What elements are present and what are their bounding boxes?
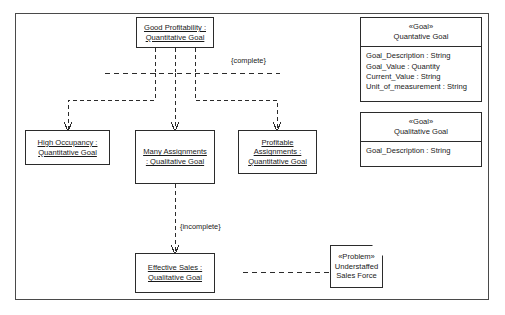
node-good-profitability-line-1: Good Profitability : <box>144 23 206 33</box>
node-high-occupancy-line-1: High Occupancy : <box>38 138 98 148</box>
note-text: «Problem» Understaffed Sales Force <box>330 252 383 281</box>
class-quantative-goal-stereotype: «Goal» <box>363 22 479 32</box>
class-quantative-goal[interactable]: «Goal» Quantative Goal Goal_Description … <box>360 17 482 102</box>
class-quantative-goal-attributes: Goal_Description : String Goal_Value : Q… <box>361 47 481 96</box>
note-line-2: Sales Force <box>330 271 383 281</box>
node-many-assignments-line-1: Many Assignments <box>143 147 207 157</box>
class-qualitative-goal-header: «Goal» Qualitative Goal <box>361 113 481 142</box>
node-profitable-assignments-line-2: Assignments : <box>254 147 302 157</box>
note-line-1: Understaffed <box>330 262 383 272</box>
label-complete: {complete} <box>231 56 266 65</box>
attribute-row: Goal_Value : Quantity <box>366 62 477 72</box>
edge-root-to-high-occupancy <box>68 73 155 129</box>
attribute-row: Goal_Description : String <box>366 51 477 61</box>
class-quantative-goal-header: «Goal» Quantative Goal <box>361 18 481 47</box>
node-profitable-assignments-line-1: Profitable <box>261 138 293 148</box>
node-many-assignments-line-2: : Qualitative Goal <box>146 157 204 167</box>
class-qualitative-goal-stereotype: «Goal» <box>363 117 479 127</box>
edge-root-to-profitable-assignments <box>195 73 277 129</box>
node-high-occupancy-line-2: Quantitative Goal <box>38 148 97 158</box>
class-qualitative-goal[interactable]: «Goal» Qualitative Goal Goal_Description… <box>360 112 482 167</box>
note-stereotype: «Problem» <box>330 252 383 262</box>
note-understaffed-sales-force[interactable]: «Problem» Understaffed Sales Force <box>330 245 383 288</box>
node-effective-sales-line-2: Qualitative Goal <box>148 273 202 283</box>
label-incomplete: {incomplete} <box>180 222 221 231</box>
class-qualitative-goal-name: Qualitative Goal <box>363 127 479 137</box>
class-qualitative-goal-attributes: Goal_Description : String <box>361 142 481 160</box>
node-good-profitability-line-2: Quantitative Goal <box>146 33 205 43</box>
node-high-occupancy[interactable]: High Occupancy : Quantitative Goal <box>25 130 110 165</box>
node-many-assignments[interactable]: Many Assignments : Qualitative Goal <box>135 130 215 184</box>
node-effective-sales[interactable]: Effective Sales : Qualitative Goal <box>135 253 215 293</box>
attribute-row: Unit_of_measurement : String <box>366 82 477 92</box>
attribute-row: Goal_Description : String <box>366 146 477 156</box>
attribute-row: Current_Value : String <box>366 72 477 82</box>
node-good-profitability[interactable]: Good Profitability : Quantitative Goal <box>136 17 214 48</box>
node-profitable-assignments-line-3: Quantitative Goal <box>248 157 307 167</box>
class-quantative-goal-name: Quantative Goal <box>363 32 479 42</box>
node-profitable-assignments[interactable]: Profitable Assignments : Quantitative Go… <box>238 130 317 174</box>
page-caption-remnant <box>18 303 438 313</box>
node-effective-sales-line-1: Effective Sales : <box>148 263 202 273</box>
